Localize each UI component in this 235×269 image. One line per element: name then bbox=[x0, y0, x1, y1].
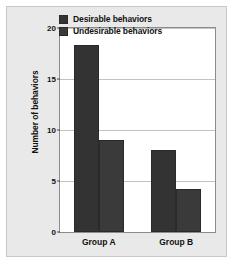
bar bbox=[99, 140, 124, 232]
y-axis-title: Number of behaviors bbox=[30, 37, 40, 187]
y-tick-label: 15 bbox=[47, 75, 56, 84]
y-tick-label: 0 bbox=[52, 228, 56, 237]
legend: Desirable behaviorsUndesirable behaviors bbox=[59, 14, 162, 36]
y-tick-label: 10 bbox=[47, 126, 56, 135]
legend-swatch-icon bbox=[59, 27, 68, 36]
bar-group-container bbox=[60, 28, 215, 232]
x-tick-label: Group A bbox=[82, 237, 116, 247]
legend-item: Desirable behaviors bbox=[59, 14, 162, 24]
y-tick-label: 20 bbox=[47, 24, 56, 33]
plot-area: 05101520 Group AGroup B bbox=[59, 27, 216, 233]
legend-swatch-icon bbox=[59, 15, 68, 24]
bar bbox=[176, 189, 201, 232]
x-tick-label: Group B bbox=[159, 237, 193, 247]
bar bbox=[74, 45, 99, 232]
bar bbox=[151, 150, 176, 232]
chart-figure: Number of behaviors 05101520 Group AGrou… bbox=[6, 6, 227, 257]
legend-label: Desirable behaviors bbox=[73, 14, 152, 24]
legend-label: Undesirable behaviors bbox=[73, 26, 162, 36]
legend-item: Undesirable behaviors bbox=[59, 26, 162, 36]
y-tick-label: 5 bbox=[52, 177, 56, 186]
